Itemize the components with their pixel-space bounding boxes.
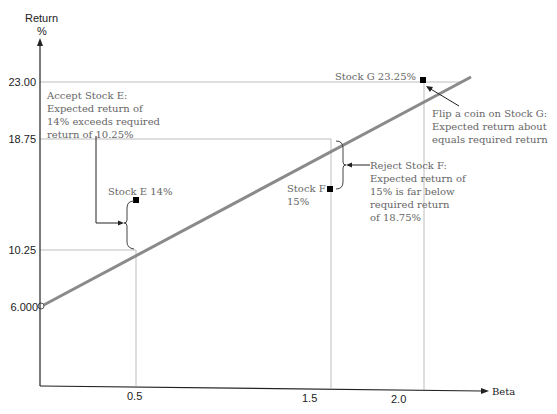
x-axis-arrow-icon [481,388,489,394]
arrow-icon [426,86,433,92]
stock-f-marker [327,186,333,192]
svg-text:of 18.75%: of 18.75% [370,212,421,223]
x-tick: 0.5 [127,390,142,402]
stock-g-marker [420,77,426,83]
y-axis-arrow-icon [37,38,43,46]
svg-text:required return: required return [370,199,450,210]
intercept-marker [38,303,44,309]
annotation-flip-g: Flip a coin on Stock G: Expected return … [426,86,548,145]
svg-text:equals required return: equals required return [432,134,548,145]
stock-f-label: Stock F [287,183,326,194]
sml-chart: Return % Beta 23.00 18.75 10.25 6.000 0.… [0,0,557,414]
svg-text:Expected return about: Expected return about [432,121,547,132]
annotation-reject-f: Reject Stock F: Expected return of 15% i… [336,141,467,223]
y-tick: 23.00 [8,76,36,88]
arrow-icon [118,221,124,226]
svg-text:Reject Stock F:: Reject Stock F: [370,160,447,171]
svg-text:Accept Stock E:: Accept Stock E: [46,90,127,101]
svg-text:return of 10.25%: return of 10.25% [47,129,134,140]
svg-text:14% exceeds required: 14% exceeds required [47,116,161,127]
y-axis-unit: % [37,25,47,37]
y-tick: 6.000 [10,301,38,313]
svg-text:Expected return of: Expected return of [370,173,467,184]
y-tick: 10.25 [8,244,36,256]
y-tick: 18.75 [8,133,36,145]
stock-f-value: 15% [287,196,309,207]
svg-text:Flip a coin on Stock G:: Flip a coin on Stock G: [432,108,547,119]
stock-e-label: Stock E 14% [108,186,172,197]
annotation-accept-e: Accept Stock E: Expected return of 14% e… [46,90,161,249]
x-tick: 1.5 [302,392,317,404]
x-tick: 2.0 [391,393,406,405]
y-axis-label: Return [25,12,58,24]
x-axis-label: Beta [492,386,515,397]
brace-icon [124,201,134,249]
svg-text:Expected return of: Expected return of [47,103,144,114]
svg-text:15% is far below: 15% is far below [370,186,455,197]
stock-g-label: Stock G 23.25% [335,71,416,82]
arrow-icon [346,163,352,168]
stock-e-marker [133,197,139,203]
